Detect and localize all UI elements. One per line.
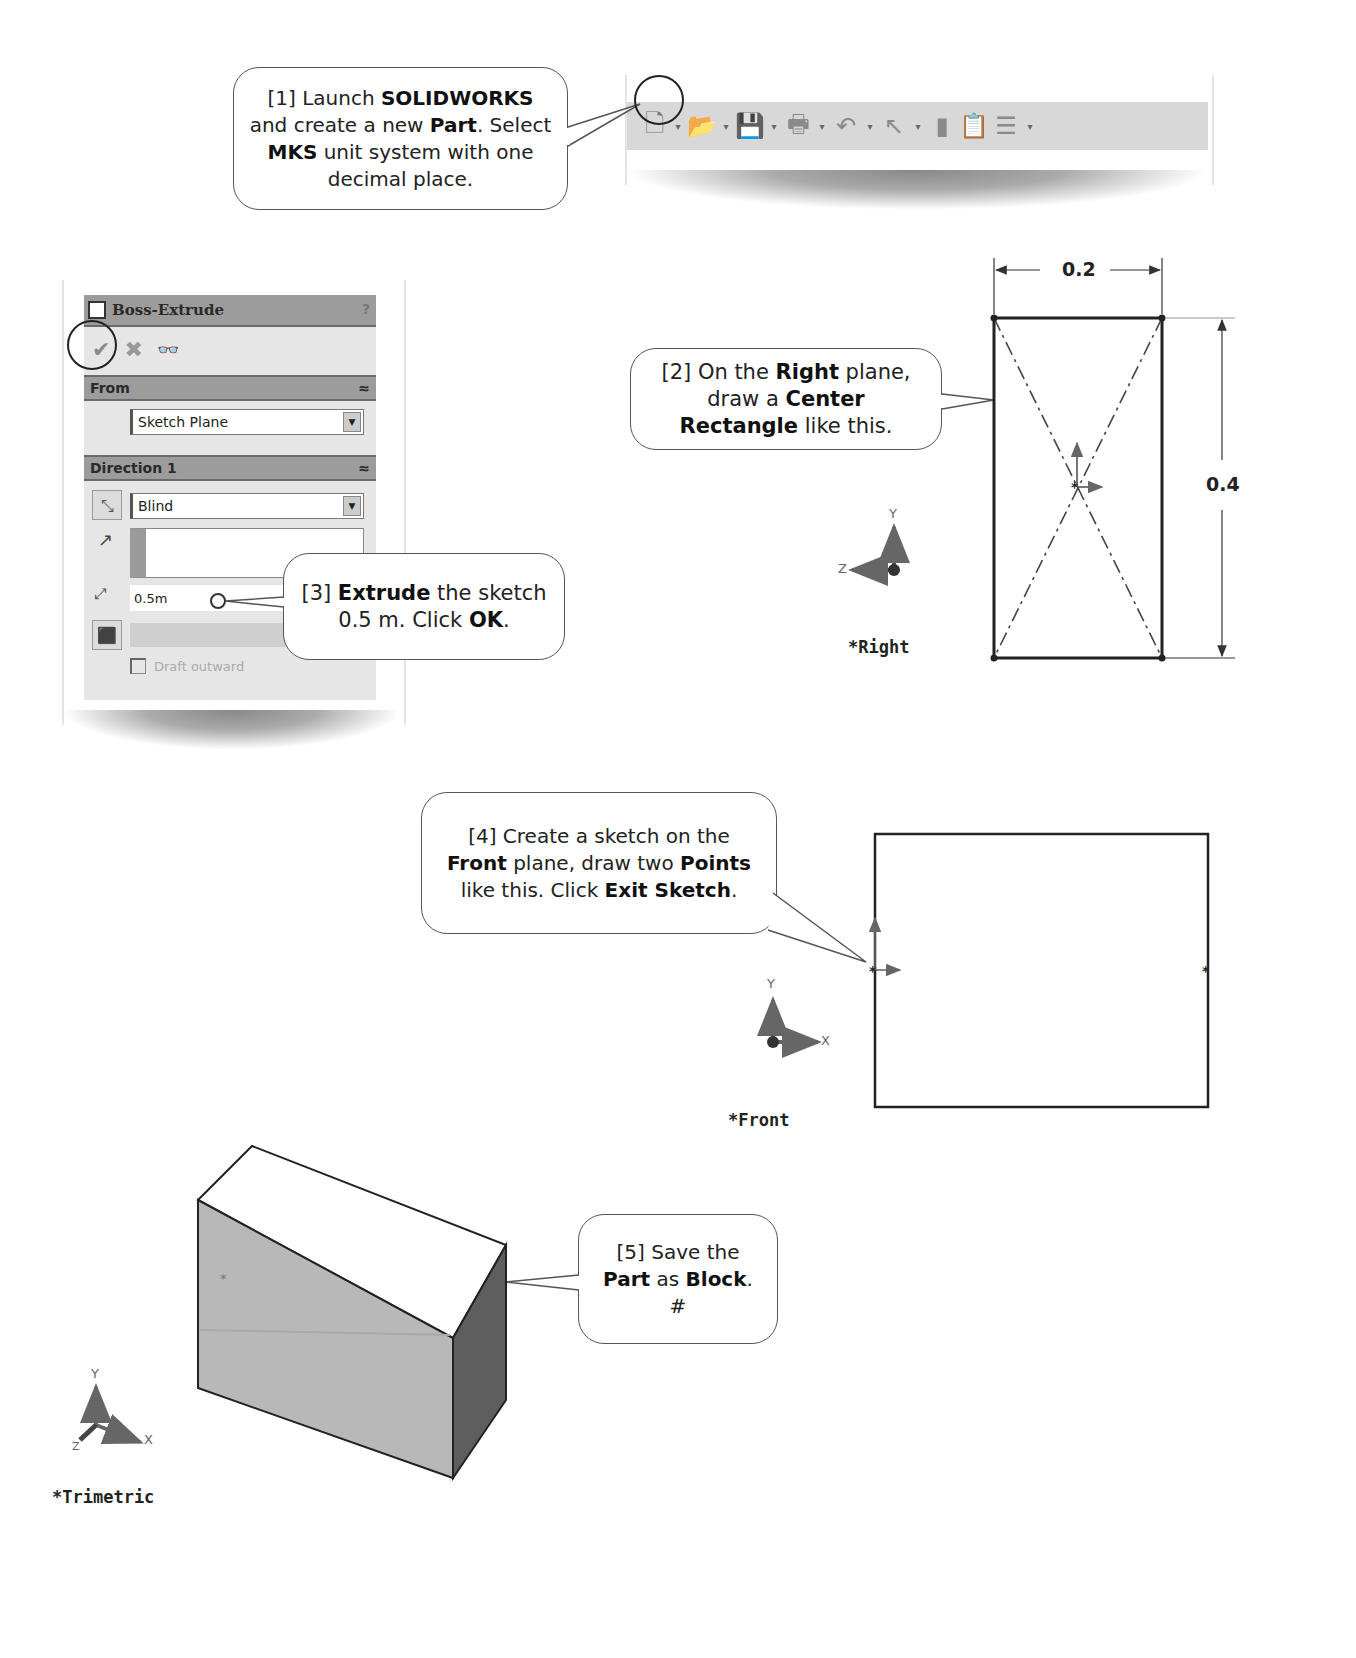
front-view-rectangle — [875, 834, 1208, 1107]
axis-label-z: Z — [72, 1440, 80, 1453]
svg-text:*: * — [869, 963, 877, 979]
axis-label-z: Z — [838, 561, 847, 576]
trimetric-block: * — [198, 1146, 506, 1478]
callout-step-3-pointer — [211, 594, 284, 608]
drawing-layer: * * * — [0, 0, 1356, 1658]
new-document-highlight-circle — [635, 76, 683, 124]
sketch-point-left: * — [869, 918, 900, 979]
height-dimension-value[interactable]: 0.4 — [1202, 473, 1244, 495]
trimetric-triad — [80, 1387, 140, 1442]
axis-label-y: Y — [889, 506, 897, 521]
sketch-point-right: * — [1202, 963, 1210, 979]
view-label-trimetric: *Trimetric — [52, 1487, 154, 1507]
width-dimension-value[interactable]: 0.2 — [1058, 258, 1100, 280]
callout-step-5-pointer — [505, 1275, 579, 1290]
view-label-right: *Right — [848, 637, 909, 657]
callout-step-2-pointer — [942, 394, 994, 409]
right-view-triad — [852, 527, 900, 576]
front-view-triad — [767, 1000, 818, 1048]
svg-text:*: * — [1202, 963, 1210, 979]
ok-highlight-circle — [68, 321, 116, 369]
axis-label-y: Y — [767, 976, 775, 991]
svg-text:*: * — [1071, 479, 1079, 495]
axis-label-x: X — [821, 1033, 830, 1048]
callout-step-1-pointer — [568, 104, 640, 146]
callout-step-4-pointer — [768, 893, 866, 962]
svg-text:*: * — [220, 1271, 227, 1286]
view-label-front: *Front — [728, 1110, 789, 1130]
axis-label-x: X — [144, 1432, 153, 1447]
axis-label-y: Y — [91, 1366, 99, 1381]
